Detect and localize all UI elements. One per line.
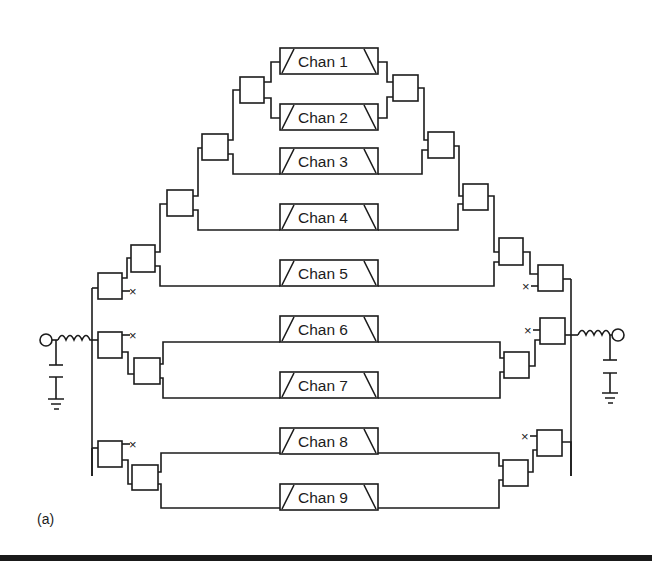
switch-box xyxy=(503,460,528,486)
switch-box xyxy=(134,358,160,384)
channel-label: Chan 9 xyxy=(298,489,348,506)
channel-filters: Chan 1Chan 2Chan 3Chan 4Chan 5Chan 6Chan… xyxy=(280,48,378,510)
switch-box xyxy=(131,245,155,272)
switch-box xyxy=(499,238,523,265)
port-circle-icon xyxy=(40,334,52,346)
channel-label: Chan 4 xyxy=(298,209,348,226)
switch-box xyxy=(504,352,529,378)
switch-box xyxy=(540,318,565,344)
output-combiner: × × × xyxy=(378,252,571,508)
channel-label: Chan 3 xyxy=(298,153,348,170)
switch-box xyxy=(132,465,158,490)
input-port xyxy=(40,334,92,409)
switch-box xyxy=(98,273,122,299)
input-splitter: × × × xyxy=(92,258,280,508)
ground-icon xyxy=(48,399,64,409)
termination-x-icon: × xyxy=(129,284,137,299)
channel-filter: Chan 8 xyxy=(280,428,378,454)
termination-x-icon: × xyxy=(129,328,137,343)
switch-box xyxy=(393,75,418,101)
switch-box xyxy=(202,134,228,160)
inductor-icon xyxy=(58,336,92,341)
switch-box xyxy=(167,190,193,216)
multiplexer-diagram: Chan 1Chan 2Chan 3Chan 4Chan 5Chan 6Chan… xyxy=(0,0,652,563)
switch-box xyxy=(537,430,562,456)
channel-filter: Chan 9 xyxy=(280,484,378,510)
port-circle-icon xyxy=(612,329,624,341)
termination-x-icon: × xyxy=(521,429,529,444)
termination-x-icon: × xyxy=(129,437,137,452)
channel-filter: Chan 3 xyxy=(280,148,378,174)
switch-box xyxy=(463,184,488,210)
channel-filter: Chan 2 xyxy=(280,104,378,130)
output-port xyxy=(571,329,624,403)
channel-filter: Chan 6 xyxy=(280,316,378,342)
channel-filter: Chan 1 xyxy=(280,48,378,74)
channel-label: Chan 1 xyxy=(298,53,348,70)
channel-label: Chan 5 xyxy=(298,265,348,282)
channel-filter: Chan 5 xyxy=(280,260,378,286)
switch-box xyxy=(428,132,454,158)
switch-box xyxy=(98,441,122,467)
channel-label: Chan 6 xyxy=(298,321,348,338)
termination-x-icon: × xyxy=(524,323,532,338)
figure-caption: (a) xyxy=(37,511,54,527)
inductor-icon xyxy=(578,331,612,336)
channel-label: Chan 7 xyxy=(298,377,348,394)
channel-filter: Chan 7 xyxy=(280,372,378,398)
termination-x-icon: × xyxy=(522,279,530,294)
bottom-rule xyxy=(0,555,652,561)
ground-icon xyxy=(602,393,618,403)
switch-box xyxy=(240,77,264,103)
switch-box xyxy=(98,332,122,358)
switch-box xyxy=(538,265,563,291)
channel-filter: Chan 4 xyxy=(280,204,378,230)
channel-label: Chan 2 xyxy=(298,109,348,126)
channel-label: Chan 8 xyxy=(298,433,348,450)
